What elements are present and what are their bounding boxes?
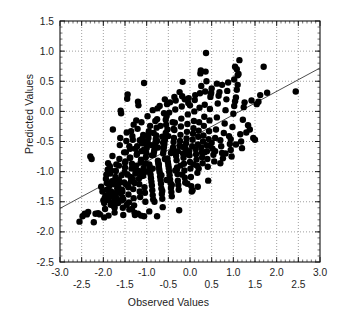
svg-text:-0.5: -0.5 xyxy=(36,136,54,147)
svg-text:-2.5: -2.5 xyxy=(36,257,54,268)
x-axis-tick-labels-major: -3.0-2.0-1.00.01.02.03.0 xyxy=(51,267,327,278)
svg-text:3.0: 3.0 xyxy=(313,267,327,278)
svg-text:-3.0: -3.0 xyxy=(51,267,69,278)
y-axis-tick-labels: 1.51.00.50.0-0.5-1.0-1.5-2.0-2.5 xyxy=(36,16,54,268)
x-axis-tick-labels-minor: -2.5-1.5-0.50.51.52.5 xyxy=(73,279,306,290)
data-points xyxy=(76,50,299,226)
svg-text:-2.0: -2.0 xyxy=(95,267,113,278)
svg-text:-1.0: -1.0 xyxy=(138,267,156,278)
svg-text:-1.5: -1.5 xyxy=(116,279,134,290)
svg-text:1.0: 1.0 xyxy=(40,46,54,57)
y-axis-title: Predicted Values xyxy=(23,59,35,169)
svg-text:2.5: 2.5 xyxy=(291,279,305,290)
plot-canvas: -3.0-2.0-1.00.01.02.03.0 -2.5-1.5-0.50.5… xyxy=(0,0,337,326)
svg-text:-1.5: -1.5 xyxy=(36,196,54,207)
svg-text:-0.5: -0.5 xyxy=(160,279,178,290)
svg-text:-2.0: -2.0 xyxy=(36,226,54,237)
svg-text:0.0: 0.0 xyxy=(40,106,54,117)
scatter-plot-figure: -3.0-2.0-1.00.01.02.03.0 -2.5-1.5-0.50.5… xyxy=(0,0,337,326)
svg-text:-2.5: -2.5 xyxy=(73,279,91,290)
svg-text:1.0: 1.0 xyxy=(226,267,240,278)
x-axis-title: Observed Values xyxy=(0,296,337,308)
svg-text:1.5: 1.5 xyxy=(40,16,54,27)
svg-text:1.5: 1.5 xyxy=(248,279,262,290)
svg-text:0.0: 0.0 xyxy=(183,267,197,278)
svg-text:0.5: 0.5 xyxy=(40,76,54,87)
svg-text:2.0: 2.0 xyxy=(270,267,284,278)
svg-text:0.5: 0.5 xyxy=(205,279,219,290)
svg-text:-1.0: -1.0 xyxy=(36,166,54,177)
